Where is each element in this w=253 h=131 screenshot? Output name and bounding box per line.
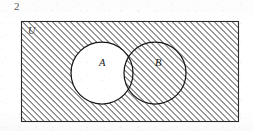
venn-diagram-canvas: U A B bbox=[0, 0, 253, 131]
set-b-label: B bbox=[155, 57, 162, 68]
universe-rectangle bbox=[22, 22, 239, 122]
set-a-label: A bbox=[98, 57, 106, 68]
venn-figure: 2 bbox=[0, 0, 253, 131]
shaded-region-complement-of-a-minus-b bbox=[22, 22, 239, 122]
universe-label: U bbox=[28, 25, 36, 36]
